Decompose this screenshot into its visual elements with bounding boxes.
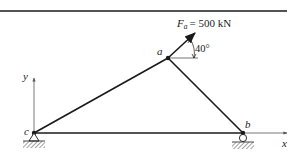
roller-support-icon xyxy=(239,134,246,141)
force-arrow xyxy=(168,33,195,58)
pin-ground-hatch xyxy=(23,141,45,148)
angle-label: 40° xyxy=(195,43,210,54)
node-a-label: a xyxy=(157,45,163,57)
force-subscript: a xyxy=(184,22,188,31)
member-ca xyxy=(34,58,168,133)
node-b-label: b xyxy=(245,118,251,130)
truss-diagram: y x 40° Fa= 500 kN a c b xyxy=(0,0,308,166)
y-axis-label: y xyxy=(22,70,28,82)
x-axis-label: x xyxy=(281,137,287,149)
force-value: = 500 kN xyxy=(189,17,231,29)
roller-ground-hatch xyxy=(232,142,254,149)
node-c-label: c xyxy=(24,125,29,137)
pin-support-icon xyxy=(29,133,39,141)
force-label: Fa= 500 kN xyxy=(176,17,231,31)
node-a xyxy=(166,56,170,60)
member-ab xyxy=(168,58,243,133)
